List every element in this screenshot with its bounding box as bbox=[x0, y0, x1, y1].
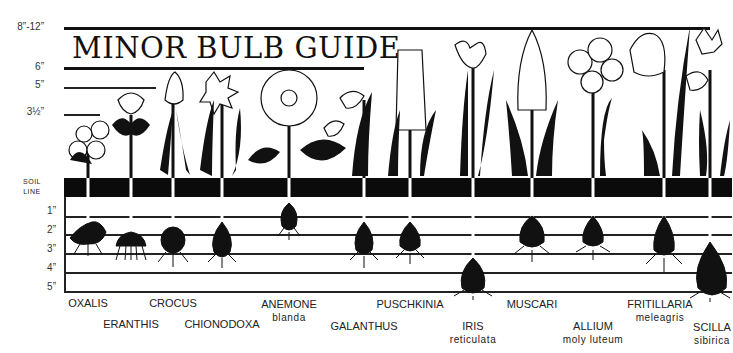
plant-label-puschkinia: PUSCHKINIA bbox=[376, 298, 443, 311]
plant-label-galanthus: GALANTHUS bbox=[330, 320, 397, 333]
plant-label-allium: ALLIUMmoly luteum bbox=[563, 320, 624, 346]
minor-bulb-guide-diagram: 8”-12” 6” 5” 3½” MINOR BULB GUIDE SOIL L… bbox=[0, 0, 733, 353]
plant-label-iris: IRISreticulata bbox=[450, 320, 497, 346]
plant-label-chionodoxa: CHIONODOXA bbox=[184, 318, 259, 331]
plant-label-eranthis: ERANTHIS bbox=[103, 318, 159, 331]
plant-label-crocus: CROCUS bbox=[149, 297, 197, 310]
plant-label-scilla: SCILLAsibirica bbox=[693, 321, 731, 347]
plant-label-anemone: ANEMONEblanda bbox=[261, 298, 317, 324]
plant-label-oxalis: OXALIS bbox=[68, 297, 108, 310]
plant-illustrations bbox=[0, 0, 733, 353]
plant-label-muscari: MUSCARI bbox=[507, 298, 558, 311]
plant-label-fritillaria: FRITILLARIAmeleagris bbox=[627, 298, 692, 324]
